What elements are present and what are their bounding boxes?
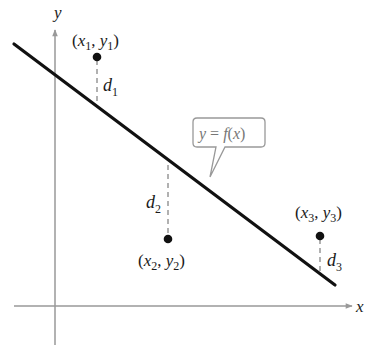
point-1-label: (x1, y1) [72, 31, 119, 53]
point-3-marker [316, 232, 325, 241]
point-labels: (x1, y1) (x2, y2) (x3, y3) [72, 31, 342, 273]
distance-label-d3: d3 [327, 250, 342, 274]
distance-label-d1: d1 [103, 75, 118, 99]
point-1-marker [93, 53, 102, 62]
point-3-label: (x3, y3) [295, 203, 342, 225]
x-axis-label: x [355, 297, 364, 316]
distance-segments [97, 60, 320, 273]
y-axis-label: y [52, 3, 62, 22]
point-2-label: (x2, y2) [138, 251, 185, 273]
point-2-marker [164, 235, 173, 244]
data-points [93, 53, 325, 244]
regression-line [14, 44, 335, 285]
callout-label: y = f(x) [197, 125, 245, 143]
regression-diagram: y x y = f(x) (x1, y1) (x2, y2) (x3, y3) [0, 0, 376, 358]
distance-label-d2: d2 [146, 192, 161, 216]
function-callout: y = f(x) [193, 118, 265, 177]
distance-labels: d1 d2 d3 [103, 75, 342, 274]
